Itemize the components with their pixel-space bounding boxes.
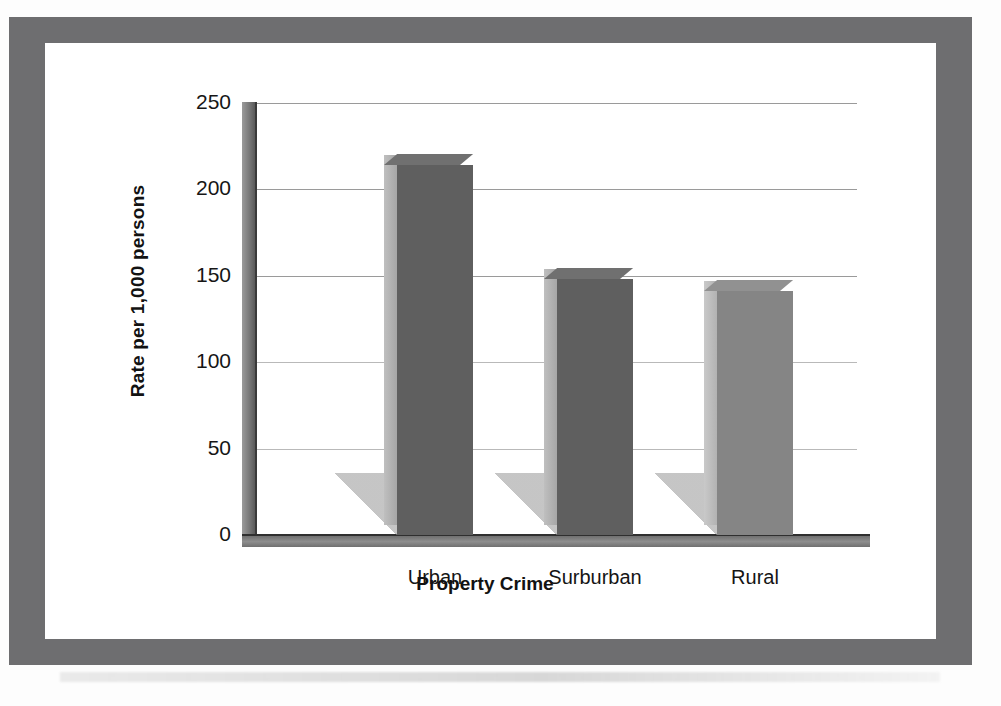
y-tick-0: 0 — [111, 522, 231, 546]
bar-front-urban — [397, 165, 473, 535]
bar-urban[interactable] — [397, 155, 473, 535]
bar-chart: Rate per 1,000 persons 250 200 150 100 5… — [45, 35, 925, 625]
gridline-200 — [255, 189, 857, 190]
scan-artifact-bottom — [60, 672, 940, 682]
y-axis-wall — [242, 102, 255, 540]
bar-side-rural — [704, 281, 717, 525]
y-tick-250: 250 — [111, 90, 231, 114]
bar-side-surburban — [544, 269, 557, 525]
bar-top-surburban — [544, 268, 633, 279]
y-tick-50: 50 — [111, 436, 231, 460]
y-tick-150: 150 — [111, 263, 231, 287]
gridline-250 — [255, 103, 857, 104]
bar-rural[interactable] — [717, 281, 793, 535]
bar-top-rural — [704, 280, 793, 291]
y-tick-100: 100 — [111, 349, 231, 373]
bar-front-rural — [717, 291, 793, 535]
scanned-page: Rate per 1,000 persons 250 200 150 100 5… — [0, 0, 1001, 706]
bar-side-urban — [384, 155, 397, 525]
plot-area: 250 200 150 100 50 0 — [255, 103, 857, 535]
bar-surburban[interactable] — [557, 269, 633, 535]
x-axis-title: Property Crime — [45, 573, 925, 595]
x-axis-floor — [242, 535, 870, 547]
y-axis-line — [255, 102, 257, 540]
y-tick-200: 200 — [111, 176, 231, 200]
bar-top-urban — [384, 154, 473, 165]
bar-front-surburban — [557, 279, 633, 535]
